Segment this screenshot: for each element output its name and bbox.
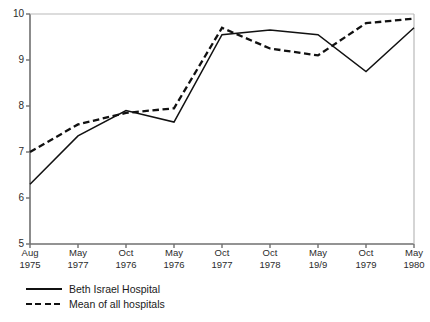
legend-item-mean-of-all-hospitals: Mean of all hospitals <box>26 296 286 311</box>
series-line-mean-of-all-hospitals <box>30 19 414 152</box>
x-tick-year: 1980 <box>384 259 430 271</box>
legend-swatch-solid-line-icon <box>26 284 62 294</box>
plot-svg <box>0 0 430 275</box>
y-axis-tick-labels: 1098765 <box>0 0 24 275</box>
x-tick-label: May1980 <box>384 247 430 270</box>
x-tick-month: May <box>384 247 430 259</box>
legend-label: Mean of all hospitals <box>69 298 165 310</box>
legend-item-beth-israel-hospital: Beth Israel Hospital <box>26 281 286 296</box>
series-line-beth-israel-hospital <box>30 28 414 184</box>
plot-area: 1098765 <box>0 0 430 275</box>
y-tick-label: 7 <box>6 147 24 157</box>
x-axis-tick-labels: Aug1975May1977Oct1976May1976Oct1977Oct19… <box>0 247 430 279</box>
chart-legend: Beth Israel Hospital Mean of all hospita… <box>26 281 286 311</box>
legend-label: Beth Israel Hospital <box>69 283 160 295</box>
y-tick-label: 8 <box>6 101 24 111</box>
y-tick-label: 9 <box>6 55 24 65</box>
y-tick-label: 10 <box>6 9 24 19</box>
legend-swatch-dashed-line-icon <box>26 299 62 309</box>
axes <box>30 14 414 244</box>
y-tick-label: 6 <box>6 193 24 203</box>
line-chart: 1098765 Aug1975May1977Oct1976May1976Oct1… <box>0 0 430 322</box>
